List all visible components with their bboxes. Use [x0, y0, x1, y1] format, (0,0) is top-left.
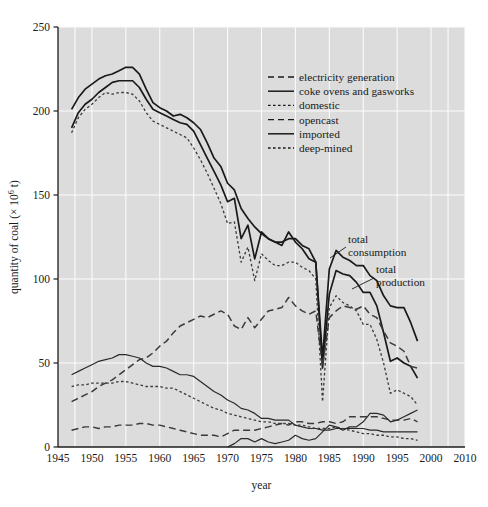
- x-tick-label: 1980: [284, 452, 307, 464]
- x-axis-title: year: [252, 479, 272, 492]
- legend-label: opencast: [299, 114, 339, 126]
- x-tick-label: 1960: [148, 452, 171, 464]
- x-tick-label: 1995: [386, 452, 409, 464]
- x-tick-label: 1945: [47, 452, 70, 464]
- y-tick-label: 250: [33, 21, 51, 33]
- x-tick-label: 1965: [182, 452, 205, 464]
- y-axis-title: quantity of coal (× 106 t): [7, 180, 22, 294]
- annotation-label-line2: production: [376, 276, 425, 288]
- annotation-label-line1: total: [376, 263, 396, 275]
- annotation-label-line1: total: [348, 233, 368, 245]
- x-tick-label: 2000: [420, 452, 443, 464]
- legend-label: deep-mined: [299, 142, 353, 154]
- coal-line-chart: 0501001502002501945195019551960196519701…: [0, 0, 488, 507]
- y-tick-label: 150: [33, 189, 51, 201]
- legend-label: imported: [299, 128, 340, 140]
- x-tick-label: 1990: [352, 452, 375, 464]
- x-tick-label: 1975: [250, 452, 273, 464]
- x-tick-label: 1970: [216, 452, 239, 464]
- x-tick-label: 1955: [114, 452, 137, 464]
- legend-label: electricity generation: [299, 71, 395, 83]
- x-tick-label: 1950: [80, 452, 103, 464]
- x-tick-label: 1985: [318, 452, 341, 464]
- y-tick-label: 50: [39, 357, 51, 369]
- annotation-label-line2: consumption: [348, 246, 407, 258]
- legend-label: coke ovens and gasworks: [299, 85, 414, 97]
- y-tick-label: 200: [33, 105, 51, 117]
- y-tick-label: 100: [33, 273, 51, 285]
- x-tick-label: 2010: [454, 452, 477, 464]
- chart-container: 0501001502002501945195019551960196519701…: [0, 0, 488, 507]
- legend-label: domestic: [299, 99, 340, 111]
